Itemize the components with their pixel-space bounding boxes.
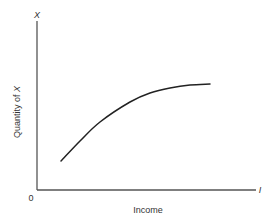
y-axis-label-variable: X [12, 85, 22, 93]
engel-curve [61, 84, 210, 161]
x-axis-label: Income [133, 205, 163, 215]
y-axis-label: Quantity of X [12, 85, 22, 138]
x-axis-end-label: I [259, 185, 262, 195]
y-axis-label-prefix: Quantity of [12, 92, 22, 138]
engel-curve-diagram: X I 0 Income Quantity of X [0, 0, 271, 223]
origin-label: 0 [28, 193, 33, 203]
y-axis-end-label: X [33, 10, 41, 20]
